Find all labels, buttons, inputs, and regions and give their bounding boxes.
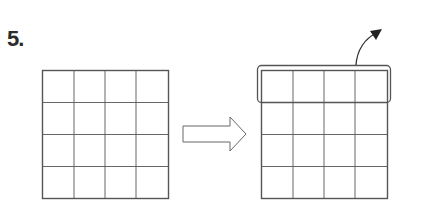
curved-arrow-icon [356,29,382,65]
diagram [0,0,431,211]
before-grid [42,70,169,199]
right-arrow-icon [183,117,246,151]
after-grid [261,70,388,199]
